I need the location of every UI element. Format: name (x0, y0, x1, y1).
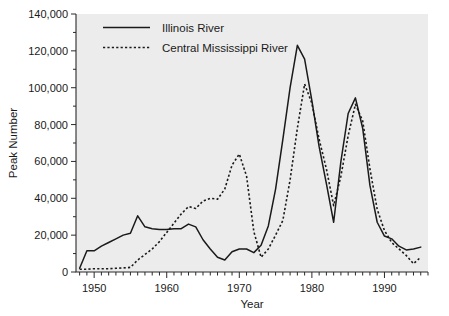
x-tick-label: 1970 (227, 282, 251, 294)
figure-container: 020,00040,00060,00080,000100,000120,0001… (0, 0, 449, 316)
y-tick-label: 20,000 (34, 229, 68, 241)
y-tick-label: 140,000 (28, 8, 68, 20)
y-tick-label: 120,000 (28, 45, 68, 57)
y-tick-label: 60,000 (34, 155, 68, 167)
y-tick-label: 80,000 (34, 119, 68, 131)
y-axis-title: Peak Number (7, 108, 19, 178)
x-tick-label: 1990 (372, 282, 396, 294)
y-tick-label: 0 (62, 266, 68, 278)
y-tick-label: 100,000 (28, 82, 68, 94)
x-tick-label: 1950 (82, 282, 106, 294)
y-tick-label: 40,000 (34, 192, 68, 204)
x-axis-title: Year (240, 298, 263, 310)
x-tick-label: 1980 (300, 282, 324, 294)
legend-label-central-mississippi-river: Central Mississippi River (162, 42, 288, 54)
line-chart: 020,00040,00060,00080,000100,000120,0001… (0, 0, 449, 316)
x-tick-label: 1960 (154, 282, 178, 294)
legend-label-illinois-river: Illinois River (162, 22, 224, 34)
